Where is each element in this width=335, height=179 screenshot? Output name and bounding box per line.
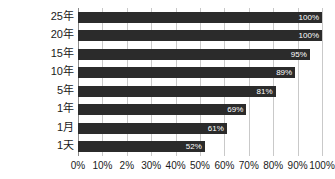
x-tick-label: 100%: [309, 160, 335, 172]
category-label: 1月: [4, 122, 74, 133]
bar-value-label: 52%: [78, 141, 205, 152]
bar-value-label: 89%: [78, 67, 295, 78]
x-tick-label: 10%: [92, 160, 112, 172]
x-tick-label: 90%: [288, 160, 308, 172]
x-tick-label: 30%: [141, 160, 161, 172]
x-axis-tick-labels: 0%10%2%30%40%50%60%70%80%90%100%: [0, 160, 335, 176]
category-label: 15年: [4, 48, 74, 59]
bar-row: 61%: [78, 123, 322, 134]
bar-row: 100%: [78, 30, 322, 41]
bar-value-label: 81%: [78, 86, 276, 97]
category-label: 5年: [4, 85, 74, 96]
x-tick-label: 80%: [263, 160, 283, 172]
category-label: 1天: [4, 140, 74, 151]
bar-chart: 25年20年15年10年5年1年1月1天 100%100%95%89%81%69…: [0, 0, 335, 179]
x-tick-label: 60%: [214, 160, 234, 172]
plot-area: 100%100%95%89%81%69%61%52%: [78, 8, 322, 156]
bar-value-label: 100%: [78, 30, 322, 41]
bar-row: 81%: [78, 86, 322, 97]
bar-value-label: 100%: [78, 12, 322, 23]
bar-row: 52%: [78, 141, 322, 152]
bar-row: 89%: [78, 67, 322, 78]
bar-row: 100%: [78, 12, 322, 23]
category-label: 25年: [4, 11, 74, 22]
y-axis-category-labels: 25年20年15年10年5年1年1月1天: [0, 8, 74, 156]
x-tick-label: 70%: [239, 160, 259, 172]
category-label: 20年: [4, 29, 74, 40]
x-tick-label: 50%: [190, 160, 210, 172]
bar-row: 69%: [78, 104, 322, 115]
bar-value-label: 61%: [78, 123, 227, 134]
category-label: 10年: [4, 66, 74, 77]
bar-row: 95%: [78, 49, 322, 60]
category-label: 1年: [4, 103, 74, 114]
x-tick-label: 0%: [71, 160, 85, 172]
bar-value-label: 95%: [78, 49, 310, 60]
bar-value-label: 69%: [78, 104, 246, 115]
gridline: [322, 8, 323, 156]
x-tick-label: 40%: [166, 160, 186, 172]
x-tick-label: 2%: [120, 160, 134, 172]
